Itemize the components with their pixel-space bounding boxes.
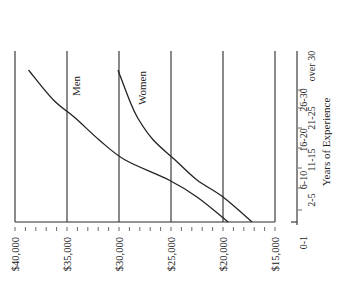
year-category-label: 16-20 (298, 128, 309, 151)
women-series-label: Women (136, 71, 148, 105)
year-category-label: 0-1 (298, 236, 309, 249)
men-series-label: Men (70, 75, 82, 96)
year-category-label: 26-30 (298, 88, 309, 111)
salary-tick-label: $15,000 (270, 237, 281, 271)
year-category-label: over 30 (306, 51, 317, 81)
salary-tick-label: $40,000 (10, 237, 21, 271)
men-salary-curve (29, 70, 229, 222)
salary-tick-label: $35,000 (62, 237, 73, 271)
salary-by-experience-chart: $40,000$35,000$30,000$25,000$20,000$15,0… (0, 0, 341, 301)
year-category-label: 6-10 (298, 171, 309, 189)
salary-axis-ticks (15, 227, 275, 231)
salary-tick-label: $20,000 (218, 237, 229, 271)
salary-tick-label: $25,000 (166, 237, 177, 271)
year-category-labels: 0-12-56-1011-1516-2021-2526-30over 30 (298, 51, 317, 249)
salary-tick-labels: $40,000$35,000$30,000$25,000$20,000$15,0… (10, 237, 281, 271)
year-category-label: 2-5 (306, 193, 317, 206)
salary-tick-label: $30,000 (114, 237, 125, 271)
years-axis-title: Years of Experience (320, 98, 332, 187)
